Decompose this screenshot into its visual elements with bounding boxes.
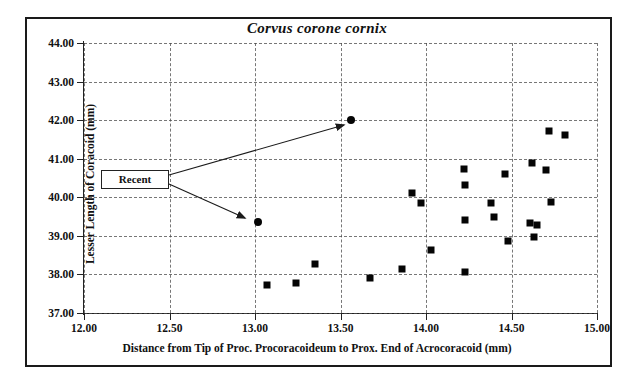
data-point-fossil bbox=[501, 170, 508, 177]
figure-container: Corvus corone cornix Lesser Length of Co… bbox=[0, 0, 634, 384]
data-point-fossil bbox=[366, 274, 373, 281]
data-point-fossil bbox=[546, 128, 553, 135]
y-tick-label: 39.00 bbox=[48, 230, 74, 242]
x-tick-mark bbox=[597, 313, 598, 320]
data-point-fossil bbox=[428, 246, 435, 253]
data-point-recent bbox=[347, 116, 355, 124]
data-point-fossil bbox=[311, 261, 318, 268]
x-tick-label: 14.00 bbox=[413, 322, 439, 334]
gridline-vertical bbox=[426, 43, 427, 313]
recent-annotation-box: Recent bbox=[101, 170, 169, 189]
data-point-fossil bbox=[505, 237, 512, 244]
recent-annotation-label: Recent bbox=[119, 174, 151, 185]
data-point-recent bbox=[254, 218, 262, 226]
data-point-fossil bbox=[263, 281, 270, 288]
data-point-fossil bbox=[462, 268, 469, 275]
y-tick-label: 40.00 bbox=[48, 191, 74, 203]
data-point-fossil bbox=[529, 159, 536, 166]
x-axis-title: Distance from Tip of Proc. Procoracoideu… bbox=[0, 342, 634, 354]
data-point-fossil bbox=[417, 200, 424, 207]
gridline-vertical bbox=[170, 43, 171, 313]
x-tick-mark bbox=[255, 313, 256, 320]
chart-title: Corvus corone cornix bbox=[0, 20, 634, 37]
x-tick-label: 12.00 bbox=[71, 322, 97, 334]
data-point-fossil bbox=[462, 182, 469, 189]
y-tick-mark bbox=[77, 82, 84, 83]
gridline-vertical bbox=[341, 43, 342, 313]
data-point-fossil bbox=[561, 131, 568, 138]
y-tick-label: 38.00 bbox=[48, 268, 74, 280]
data-point-fossil bbox=[534, 222, 541, 229]
data-point-fossil bbox=[547, 199, 554, 206]
gridline-vertical bbox=[597, 43, 598, 313]
data-point-fossil bbox=[409, 190, 416, 197]
x-tick-label: 13.50 bbox=[328, 322, 354, 334]
y-tick-label: 44.00 bbox=[48, 37, 74, 49]
x-tick-label: 15.00 bbox=[584, 322, 610, 334]
data-point-fossil bbox=[462, 217, 469, 224]
data-point-fossil bbox=[487, 200, 494, 207]
y-tick-mark bbox=[77, 236, 84, 237]
gridline-vertical bbox=[255, 43, 256, 313]
y-tick-label: 43.00 bbox=[48, 76, 74, 88]
y-tick-mark bbox=[77, 274, 84, 275]
data-point-fossil bbox=[460, 166, 467, 173]
gridline-vertical bbox=[84, 43, 85, 313]
x-tick-mark bbox=[170, 313, 171, 320]
x-tick-label: 13.00 bbox=[242, 322, 268, 334]
x-tick-mark bbox=[84, 313, 85, 320]
x-tick-label: 14.50 bbox=[499, 322, 525, 334]
x-tick-mark bbox=[341, 313, 342, 320]
y-tick-label: 42.00 bbox=[48, 114, 74, 126]
data-point-fossil bbox=[542, 166, 549, 173]
y-tick-mark bbox=[77, 43, 84, 44]
data-point-fossil bbox=[399, 265, 406, 272]
x-tick-label: 12.50 bbox=[157, 322, 183, 334]
y-tick-mark bbox=[77, 197, 84, 198]
y-tick-mark bbox=[77, 313, 84, 314]
y-tick-label: 37.00 bbox=[48, 307, 74, 319]
gridline-vertical bbox=[512, 43, 513, 313]
data-point-fossil bbox=[491, 213, 498, 220]
x-tick-mark bbox=[426, 313, 427, 320]
y-tick-label: 41.00 bbox=[48, 153, 74, 165]
data-point-fossil bbox=[293, 279, 300, 286]
y-tick-mark bbox=[77, 159, 84, 160]
y-tick-mark bbox=[77, 120, 84, 121]
x-tick-mark bbox=[512, 313, 513, 320]
data-point-fossil bbox=[530, 234, 537, 241]
